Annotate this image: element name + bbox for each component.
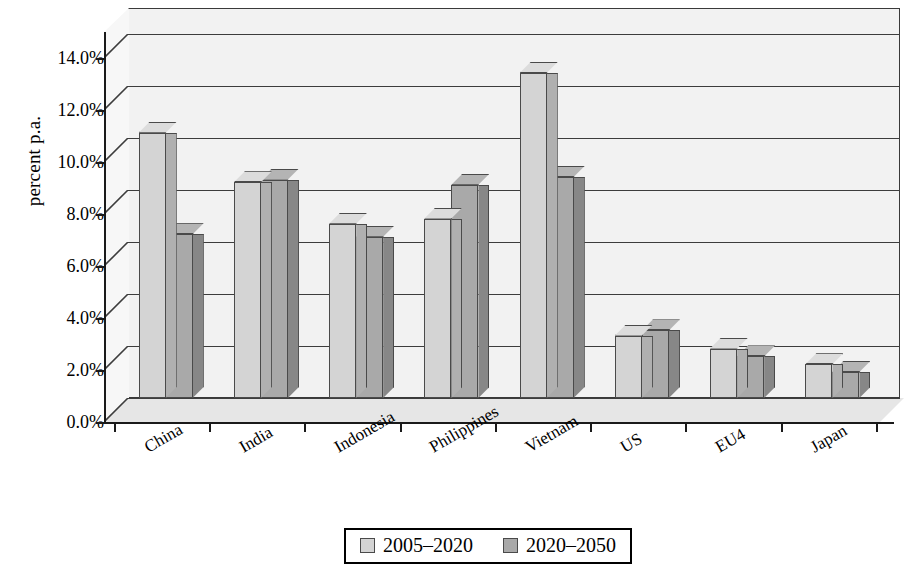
gridline: [128, 138, 900, 139]
bar-side-face: [478, 185, 489, 398]
bar: [520, 73, 547, 398]
x-axis-category-label: Japan: [807, 421, 851, 458]
medium-grey-swatch: [503, 538, 518, 553]
bar-side-face: [547, 73, 558, 398]
bar: [805, 364, 832, 398]
x-axis-tick: [876, 422, 878, 432]
x-axis-tick: [209, 422, 211, 432]
bar: [710, 349, 737, 398]
x-axis-tick: [304, 422, 306, 432]
x-axis-category-label: China: [141, 420, 186, 458]
gridline: [128, 398, 900, 399]
y-axis-tick: [96, 266, 105, 268]
x-axis-tick: [781, 422, 783, 432]
bar-side-face: [288, 180, 299, 398]
y-axis-tick-label: 14.0%: [30, 49, 104, 67]
y-axis-tick-label: 6.0%: [30, 257, 104, 275]
plot-floor: [104, 398, 904, 422]
bar-front-face: [805, 364, 832, 398]
bar-front-face: [615, 336, 642, 398]
plot-area: ChinaIndiaIndonesiaPhilippinesVietnamUSE…: [104, 0, 904, 420]
y-axis-tick-label: 10.0%: [30, 153, 104, 171]
bar: [424, 219, 451, 398]
y-axis-tick-label: 8.0%: [30, 205, 104, 223]
x-axis-category-label: India: [236, 423, 276, 458]
bar-front-face: [424, 219, 451, 398]
bar-front-face: [710, 349, 737, 398]
y-axis-tick: [96, 162, 105, 164]
y-axis-tick-label: 12.0%: [30, 101, 104, 119]
bar-side-face: [669, 330, 680, 398]
y-axis-tick-label: 2.0%: [30, 361, 104, 379]
y-axis-tick: [96, 110, 105, 112]
bar: [139, 133, 166, 398]
legend-label: 2020–2050: [526, 534, 616, 557]
bar-front-face: [329, 224, 356, 398]
bar-side-face: [356, 224, 367, 398]
bar-side-face: [193, 234, 204, 398]
gridline: [128, 86, 900, 87]
y-axis-tick: [96, 370, 105, 372]
x-axis-category-label: US: [617, 429, 646, 457]
bar-side-face: [574, 177, 585, 398]
x-axis-tick: [400, 422, 402, 432]
y-axis-tick: [96, 318, 105, 320]
legend-label: 2005–2020: [383, 534, 473, 557]
bar: [615, 336, 642, 398]
bar: [234, 182, 261, 398]
gridline: [128, 34, 900, 35]
x-axis-tick: [685, 422, 687, 432]
x-axis-tick: [495, 422, 497, 432]
x-axis-tick: [114, 422, 116, 432]
bar-front-face: [234, 182, 261, 398]
legend-entry: 2005–2020: [360, 534, 473, 557]
y-axis-line: [104, 32, 106, 422]
x-axis-tick: [590, 422, 592, 432]
y-axis-tick: [96, 58, 105, 60]
y-axis-tick-label: 0.0%: [30, 413, 104, 431]
bar: [329, 224, 356, 398]
legend-entry: 2020–2050: [503, 534, 616, 557]
bar-side-face: [261, 182, 272, 398]
plot-left-wall: [104, 8, 129, 422]
y-axis-tick: [96, 214, 105, 216]
legend: 2005–20202020–2050: [344, 528, 632, 564]
bar-front-face: [520, 73, 547, 398]
y-axis-tick-labels: 0.0%2.0%4.0%6.0%8.0%10.0%12.0%14.0%: [30, 0, 104, 420]
bar-side-face: [642, 336, 653, 398]
light-grey-swatch: [360, 538, 375, 553]
bar-front-face: [139, 133, 166, 398]
bar-side-face: [451, 219, 462, 398]
x-axis-category-label: EU4: [712, 424, 749, 457]
bar-side-face: [166, 133, 177, 398]
y-axis-tick-label: 4.0%: [30, 309, 104, 327]
bar-side-face: [383, 237, 394, 398]
x-axis-line: [104, 422, 894, 424]
